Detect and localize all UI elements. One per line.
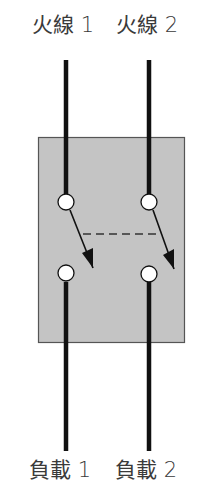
terminal-bottom-1-icon [58, 265, 74, 281]
switch-diagram [0, 0, 212, 493]
bottom-label-load-1: 負載 1 [29, 460, 91, 481]
terminal-top-1-icon [58, 194, 74, 210]
switch-body [39, 138, 185, 343]
terminal-top-2-icon [141, 194, 157, 210]
terminal-bottom-2-icon [141, 266, 157, 282]
bottom-label-load-2: 負載 2 [115, 460, 177, 481]
